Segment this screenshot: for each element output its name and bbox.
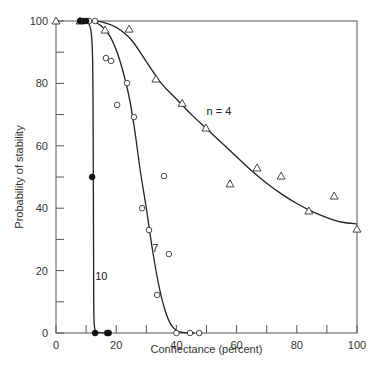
- open-circle-marker: [196, 330, 202, 336]
- y-tick-label: 20: [36, 265, 48, 277]
- open-circle-marker: [154, 292, 160, 298]
- stability-chart: 020406080100020406080100Connectance (per…: [0, 0, 385, 381]
- x-tick-label: 0: [53, 339, 59, 351]
- x-tick-label: 100: [348, 339, 366, 351]
- curve-annotation: 7: [152, 242, 158, 254]
- y-tick-label: 80: [36, 77, 48, 89]
- triangle-marker: [353, 225, 361, 232]
- open-circle-marker: [103, 55, 109, 61]
- open-circle-marker: [114, 102, 120, 108]
- triangle-marker: [152, 75, 160, 82]
- filled-circle-marker: [83, 18, 89, 24]
- open-circle-marker: [174, 330, 180, 336]
- triangle-marker: [277, 172, 285, 179]
- triangle-marker: [226, 180, 234, 187]
- fit-curve-7: [92, 21, 194, 333]
- open-circle-marker: [92, 18, 98, 24]
- open-circle-marker: [187, 330, 193, 336]
- triangle-marker: [253, 164, 261, 171]
- triangle-marker: [330, 192, 338, 199]
- filled-circle-marker: [92, 330, 98, 336]
- open-circle-marker: [139, 205, 145, 211]
- fitted-curves: [88, 21, 357, 333]
- x-tick-label: 20: [110, 339, 122, 351]
- chart-labels: n = 4710: [95, 105, 231, 282]
- curve-annotation: 10: [95, 270, 107, 282]
- open-circle-marker: [131, 114, 137, 120]
- y-tick-label: 0: [42, 327, 48, 339]
- data-markers: [52, 17, 361, 336]
- y-tick-label: 60: [36, 140, 48, 152]
- open-circle-marker: [166, 251, 172, 257]
- curve-annotation: n = 4: [207, 105, 232, 117]
- plot-frame: [56, 21, 357, 333]
- y-tick-label: 100: [30, 15, 48, 27]
- x-tick-label: 80: [291, 339, 303, 351]
- open-circle-marker: [146, 227, 152, 233]
- open-circle-marker: [108, 58, 114, 64]
- plot-axes: 020406080100020406080100Connectance (per…: [13, 15, 366, 355]
- y-tick-label: 40: [36, 202, 48, 214]
- fit-curve-n4: [92, 21, 357, 224]
- y-axis-title: Probability of stability: [13, 125, 25, 229]
- open-circle-marker: [124, 80, 130, 86]
- filled-circle-marker: [106, 330, 112, 336]
- filled-circle-marker: [89, 174, 95, 180]
- triangle-marker: [125, 25, 133, 32]
- x-axis-title: Connectance (percent): [151, 343, 263, 355]
- open-circle-marker: [161, 173, 167, 179]
